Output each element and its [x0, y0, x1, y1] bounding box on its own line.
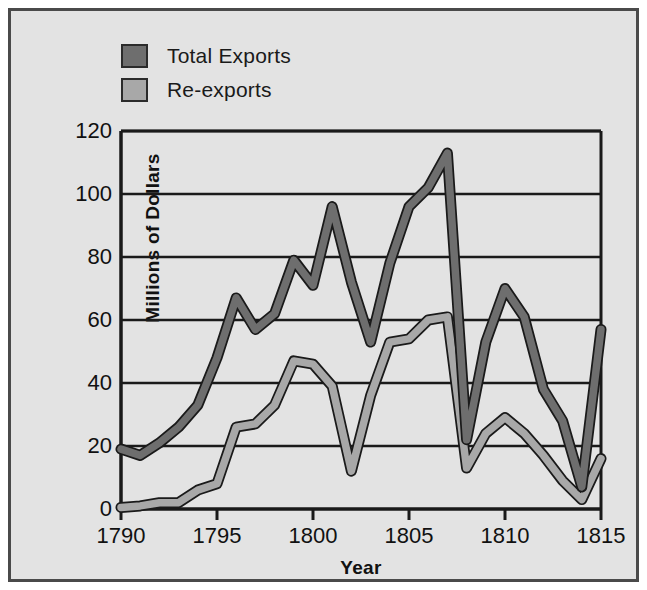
chart-canvas: [121, 131, 601, 509]
y-tick-label: 120: [75, 118, 112, 144]
x-tick-label: 1800: [289, 523, 338, 549]
x-tick-label: 1815: [577, 523, 626, 549]
legend-swatch-total-exports: [121, 44, 148, 68]
data-series-group: [121, 153, 601, 507]
y-tick-label: 0: [100, 496, 112, 522]
gridlines: [121, 131, 601, 446]
plot-area: Millions of Dollars Year 020406080100120…: [121, 131, 601, 509]
x-tick-label: 1790: [97, 523, 146, 549]
x-tick-label: 1810: [481, 523, 530, 549]
legend-label-total-exports: Total Exports: [167, 44, 291, 68]
y-tick-label: 40: [88, 370, 112, 396]
y-tick-label: 80: [88, 244, 112, 270]
y-tick-label: 100: [75, 181, 112, 207]
legend-label-re-exports: Re-exports: [167, 78, 272, 102]
legend-item-re-exports: Re-exports: [121, 73, 291, 107]
y-tick-label: 60: [88, 307, 112, 333]
x-tick-label: 1795: [193, 523, 242, 549]
x-tick-label: 1805: [385, 523, 434, 549]
legend-item-total-exports: Total Exports: [121, 39, 291, 73]
chart-figure: Total Exports Re-exports Millions of Dol…: [8, 8, 639, 582]
y-tick-label: 20: [88, 433, 112, 459]
x-axis-title: Year: [121, 557, 601, 579]
chart-legend: Total Exports Re-exports: [121, 39, 291, 107]
legend-swatch-re-exports: [121, 78, 148, 102]
